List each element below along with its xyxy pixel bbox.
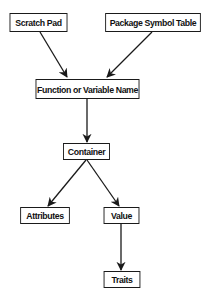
node-container: Container: [63, 143, 110, 160]
edge-container-to-value: [87, 160, 119, 206]
node-scratch-pad: Scratch Pad: [10, 13, 68, 32]
edge-scratch-pad-to-name: [40, 32, 67, 77]
node-traits: Traits: [104, 271, 141, 288]
node-package-symbol-table: Package Symbol Table: [105, 13, 201, 32]
edge-symbol-table-to-name: [107, 32, 152, 77]
node-function-or-variable-name: Function or Variable Name: [36, 79, 140, 99]
node-value: Value: [104, 207, 140, 224]
diagram-canvas: Scratch Pad Package Symbol Table Functio…: [0, 0, 208, 302]
node-attributes: Attributes: [20, 207, 70, 224]
edge-container-to-attributes: [48, 160, 86, 206]
